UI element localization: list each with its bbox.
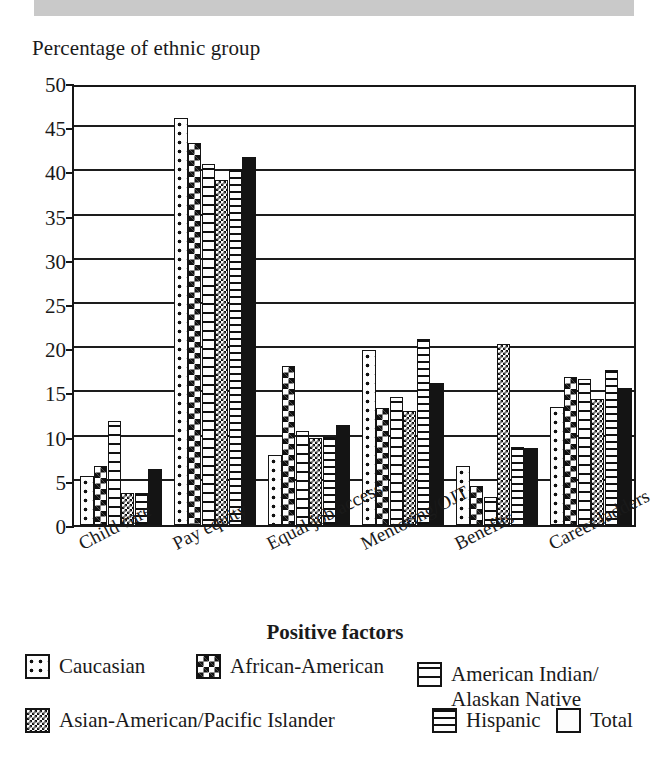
bar bbox=[215, 180, 228, 525]
x-axis-category-labels: Child carePay equityEqual job accessMent… bbox=[0, 527, 670, 599]
bar-group bbox=[262, 87, 356, 525]
bar-group bbox=[74, 87, 168, 525]
legend-swatch-horizontal-lines-icon bbox=[432, 708, 457, 733]
bar bbox=[282, 366, 295, 525]
y-tick-label-5: 5 bbox=[20, 472, 66, 493]
legend-label: Hispanic bbox=[466, 708, 541, 733]
y-axis-tick-labels: 05101520253035404550 bbox=[14, 85, 66, 527]
bar bbox=[417, 339, 430, 525]
bar bbox=[80, 476, 93, 525]
y-tick-label-25: 25 bbox=[20, 296, 66, 317]
y-tick-label-30: 30 bbox=[20, 251, 66, 272]
bar bbox=[578, 379, 591, 525]
chart-plot-area bbox=[72, 85, 636, 527]
bar bbox=[108, 421, 121, 525]
legend-label: American Indian/ Alaskan Native bbox=[451, 662, 599, 712]
bar bbox=[188, 143, 201, 525]
legend-label: African-American bbox=[230, 654, 384, 679]
chart-axis-title-x: Positive factors bbox=[0, 620, 670, 645]
legend-item[interactable]: American Indian/ Alaskan Native bbox=[417, 662, 599, 712]
bar-group bbox=[168, 87, 262, 525]
y-tick-label-35: 35 bbox=[20, 207, 66, 228]
bar bbox=[564, 377, 577, 526]
y-tick-label-40: 40 bbox=[20, 163, 66, 184]
legend-swatch-sparse-dots-icon bbox=[25, 654, 50, 679]
legend-swatch-fine-check-icon bbox=[25, 708, 50, 733]
legend-swatch-checkerboard-icon bbox=[196, 654, 221, 679]
y-tick-label-15: 15 bbox=[20, 384, 66, 405]
bar-group bbox=[450, 87, 544, 525]
bar bbox=[229, 169, 242, 525]
legend-swatch-dashes-icon bbox=[417, 662, 442, 687]
bar-group bbox=[356, 87, 450, 525]
legend-swatch-solid-black-icon bbox=[556, 708, 581, 733]
page-header-band bbox=[34, 0, 634, 16]
legend-label: Total bbox=[590, 708, 633, 733]
legend-item[interactable]: Caucasian bbox=[25, 654, 145, 679]
bar bbox=[497, 344, 510, 525]
bar bbox=[94, 466, 107, 525]
bar bbox=[296, 431, 309, 525]
chart-legend: CaucasianAfrican-AmericanAmerican Indian… bbox=[0, 652, 670, 760]
bar bbox=[268, 455, 281, 525]
bar-group bbox=[544, 87, 638, 525]
y-tick-label-50: 50 bbox=[20, 75, 66, 96]
y-tick-label-45: 45 bbox=[20, 119, 66, 140]
bar bbox=[202, 164, 215, 525]
y-tick-label-10: 10 bbox=[20, 428, 66, 449]
bar bbox=[390, 397, 403, 525]
bar bbox=[376, 408, 389, 525]
legend-label: Caucasian bbox=[59, 654, 145, 679]
bar bbox=[242, 157, 255, 525]
chart-axis-title-y: Percentage of ethnic group bbox=[32, 36, 260, 61]
bar bbox=[550, 407, 563, 525]
bar bbox=[511, 447, 524, 525]
y-tick-label-20: 20 bbox=[20, 340, 66, 361]
legend-label: Asian-American/Pacific Islander bbox=[59, 708, 335, 733]
legend-item[interactable]: African-American bbox=[196, 654, 384, 679]
bar bbox=[174, 118, 187, 525]
legend-item[interactable]: Asian-American/Pacific Islander bbox=[25, 708, 335, 733]
bar bbox=[524, 448, 537, 525]
legend-item[interactable]: Total bbox=[556, 708, 633, 733]
legend-item[interactable]: Hispanic bbox=[432, 708, 541, 733]
